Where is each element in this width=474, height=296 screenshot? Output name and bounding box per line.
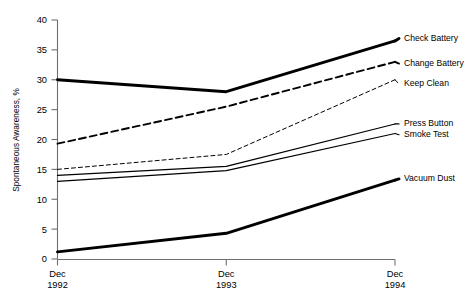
- legend-leader-vacuum-dust: [395, 179, 399, 180]
- y-tick-label: 10: [37, 195, 47, 205]
- y-tick-label: 20: [37, 135, 47, 145]
- legend-label-smoke-test: Smoke Test: [404, 129, 449, 139]
- y-tick-label: 35: [37, 45, 47, 55]
- chart-page: Spontaneous Awareness, % 051015202530354…: [0, 0, 474, 296]
- y-tick-label: 0: [42, 254, 47, 264]
- x-tick-label: Dec: [49, 269, 66, 279]
- y-axis-title: Spontaneous Awareness, %: [11, 88, 21, 192]
- legend-label-check-battery: Check Battery: [404, 33, 459, 43]
- legend-leader-check-battery: [395, 39, 399, 41]
- legend-label-change-battery: Change Battery: [404, 58, 464, 68]
- x-axis-ticks: Dec1992Dec1993Dec1994: [47, 260, 405, 291]
- x-tick-label: 1994: [385, 280, 406, 290]
- series-line-change-battery: [58, 62, 396, 144]
- y-axis-ticks: 0510152025303540: [37, 15, 58, 264]
- line-chart: Spontaneous Awareness, % 051015202530354…: [0, 0, 474, 296]
- legend-leader-change-battery: [395, 62, 399, 64]
- x-tick-label: Dec: [387, 269, 404, 279]
- y-tick-label: 25: [37, 105, 47, 115]
- legend-leader-keep-clean: [395, 80, 399, 84]
- legend-leader-smoke-test: [395, 134, 399, 135]
- series-line-check-battery: [58, 41, 396, 92]
- y-tick-label: 5: [42, 225, 47, 235]
- legend-label-vacuum-dust: Vacuum Dust: [404, 173, 456, 183]
- y-tick-label: 30: [37, 75, 47, 85]
- series-line-press-button: [58, 124, 396, 175]
- y-tick-label: 40: [37, 15, 47, 25]
- series-line-keep-clean: [58, 80, 396, 170]
- x-tick-label: Dec: [218, 269, 235, 279]
- legend: Check BatteryChange BatteryKeep CleanPre…: [395, 33, 464, 183]
- legend-label-press-button: Press Button: [404, 118, 453, 128]
- x-tick-label: 1992: [47, 280, 68, 290]
- series-lines: [58, 41, 396, 252]
- y-tick-label: 15: [37, 165, 47, 175]
- x-tick-label: 1993: [216, 280, 237, 290]
- series-line-smoke-test: [58, 134, 396, 182]
- legend-label-keep-clean: Keep Clean: [404, 78, 449, 88]
- series-line-vacuum-dust: [58, 180, 396, 252]
